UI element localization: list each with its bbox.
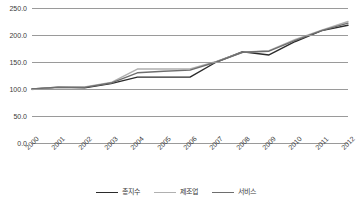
legend-line-swatch <box>212 192 234 193</box>
plot-area <box>32 8 348 143</box>
legend-item[interactable]: 서비스 <box>212 188 256 196</box>
y-axis-tick-label: 150.0 <box>9 59 27 66</box>
gridline <box>32 116 348 117</box>
series-line <box>32 23 348 89</box>
x-axis: 2000200120022003200420052006200720082009… <box>32 146 348 180</box>
legend-item-label: 제조업 <box>180 188 198 196</box>
series-line <box>32 22 348 90</box>
y-axis-tick-label: 200.0 <box>9 32 27 39</box>
y-axis-tick-label: 250.0 <box>9 5 27 12</box>
y-axis: 0.050.0100.0150.0200.0250.0 <box>0 0 30 151</box>
legend-item[interactable]: 총지수 <box>96 188 140 196</box>
legend-item-label: 총지수 <box>122 188 140 196</box>
legend-line-swatch <box>154 192 176 193</box>
legend-item-label: 서비스 <box>238 188 256 196</box>
legend-item[interactable]: 제조업 <box>154 188 198 196</box>
legend-line-swatch <box>96 192 118 193</box>
gridline <box>32 89 348 90</box>
y-axis-tick-label: 50.0 <box>13 113 27 120</box>
chart-legend: 총지수제조업서비스 <box>0 184 352 200</box>
gridline <box>32 8 348 9</box>
y-axis-tick-label: 100.0 <box>9 86 27 93</box>
series-layer <box>32 8 348 143</box>
gridline <box>32 35 348 36</box>
gridline <box>32 62 348 63</box>
